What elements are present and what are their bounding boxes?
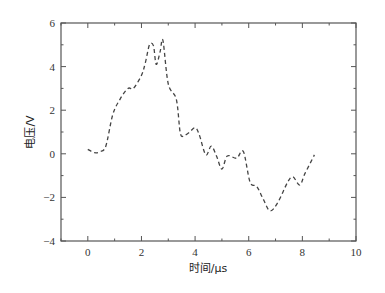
y-tick-label: 2 (50, 104, 56, 116)
plot-frame (61, 23, 356, 241)
line-chart: 0246810 −4−20246 时间/μs 电压/V (0, 0, 385, 293)
voltage-series-line (88, 39, 315, 211)
y-tick-label: −2 (43, 191, 55, 203)
y-tick-label: 0 (50, 148, 56, 160)
minor-ticks (61, 23, 356, 241)
x-tick-label: 0 (85, 246, 91, 258)
y-tick-label: 4 (50, 61, 56, 73)
x-tick-label: 4 (192, 246, 198, 258)
x-tick-label: 2 (139, 246, 145, 258)
major-ticks (61, 23, 356, 241)
y-tick-label: −4 (43, 235, 55, 247)
y-tick-label: 6 (50, 17, 56, 29)
y-axis-label: 电压/V (24, 115, 37, 149)
x-tick-labels: 0246810 (85, 246, 362, 258)
x-axis-label: 时间/μs (189, 262, 228, 275)
x-tick-label: 8 (300, 246, 306, 258)
x-tick-label: 6 (246, 246, 252, 258)
y-tick-labels: −4−20246 (43, 17, 55, 247)
x-tick-label: 10 (351, 246, 363, 258)
